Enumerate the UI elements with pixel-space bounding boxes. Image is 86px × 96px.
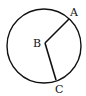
- circle-diagram: A B C: [0, 0, 86, 96]
- label-b: B: [33, 37, 41, 50]
- radius-bc: [45, 43, 56, 80]
- label-c: C: [55, 83, 63, 96]
- label-a: A: [69, 6, 79, 19]
- radius-ba: [45, 19, 69, 43]
- circle: [7, 9, 81, 83]
